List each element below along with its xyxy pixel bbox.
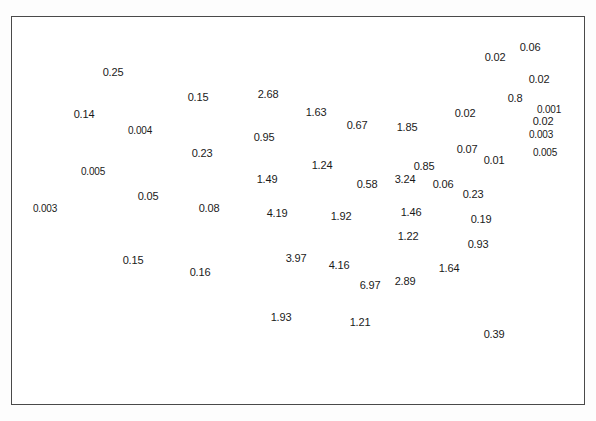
region-value-label: 0.15	[123, 255, 144, 266]
region-value-label: 1.63	[306, 107, 327, 118]
map-figure: 0.250.140.0040.152.681.630.950.231.490.0…	[0, 0, 596, 421]
region-value-label: 0.02	[485, 52, 506, 63]
region-value-label: 0.02	[455, 108, 476, 119]
region-value-label: 1.92	[331, 211, 352, 222]
region-value-label: 0.14	[74, 109, 95, 120]
region-value-label: 0.003	[529, 130, 553, 140]
region-value-label: 0.15	[188, 92, 209, 103]
region-value-label: 0.004	[128, 126, 152, 136]
region-value-label: 0.39	[484, 329, 505, 340]
region-value-label: 4.16	[329, 260, 350, 271]
region-value-label: 0.07	[457, 144, 478, 155]
region-value-label: 1.21	[350, 317, 371, 328]
region-value-label: 1.49	[257, 174, 278, 185]
region-value-label: 0.05	[138, 191, 159, 202]
region-value-label: 3.24	[395, 174, 416, 185]
region-value-label: 0.01	[484, 155, 505, 166]
region-value-label: 0.58	[357, 179, 378, 190]
region-value-label: 0.003	[33, 204, 57, 214]
region-value-label: 1.46	[401, 207, 422, 218]
region-value-label: 1.85	[397, 122, 418, 133]
figure-frame-border	[11, 16, 585, 405]
region-value-label: 2.89	[395, 276, 416, 287]
region-value-label: 6.97	[360, 280, 381, 291]
region-value-label: 4.19	[267, 208, 288, 219]
region-value-label: 0.85	[414, 161, 435, 172]
region-value-label: 0.95	[254, 132, 275, 143]
region-value-label: 0.06	[433, 179, 454, 190]
region-value-label: 0.23	[192, 148, 213, 159]
region-value-label: 0.67	[347, 120, 368, 131]
region-value-label: 0.02	[533, 116, 554, 127]
region-value-label: 0.005	[81, 167, 105, 177]
region-value-label: 1.24	[312, 160, 333, 171]
region-value-label: 0.8	[508, 93, 523, 104]
region-value-label: 0.005	[533, 148, 557, 158]
region-value-label: 0.06	[520, 42, 541, 53]
region-value-label: 0.02	[529, 74, 550, 85]
region-value-label: 0.08	[199, 203, 220, 214]
region-value-label: 0.001	[537, 105, 561, 115]
region-value-label: 0.19	[471, 214, 492, 225]
region-value-label: 1.22	[398, 231, 419, 242]
region-value-label: 3.97	[286, 253, 307, 264]
region-value-label: 1.64	[439, 263, 460, 274]
region-value-label: 0.16	[190, 267, 211, 278]
region-value-label: 0.93	[468, 239, 489, 250]
region-value-label: 1.93	[271, 312, 292, 323]
region-value-label: 0.25	[103, 67, 124, 78]
region-value-label: 2.68	[258, 89, 279, 100]
region-value-label: 0.23	[463, 189, 484, 200]
